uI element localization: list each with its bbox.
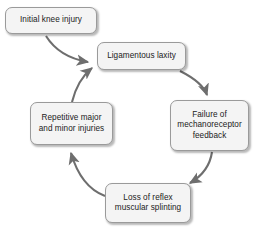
edge-failure-to-loss <box>190 152 212 183</box>
edge-initial-to-laxity <box>46 36 88 62</box>
node-initial-knee-injury[interactable]: Initial knee injury <box>5 7 97 34</box>
diagram-canvas: Initial knee injury Ligamentous laxity F… <box>0 0 258 229</box>
node-label: Ligamentous laxity <box>104 51 179 62</box>
node-ligamentous-laxity[interactable]: Ligamentous laxity <box>97 42 186 70</box>
node-failure-of-mechanoreceptor-feedback[interactable]: Failure of mechanoreceptor feedback <box>170 100 249 151</box>
edge-loss-to-repetitive <box>71 153 105 196</box>
node-label: Failure of mechanoreceptor feedback <box>174 110 244 142</box>
node-loss-of-reflex-muscular-splinting[interactable]: Loss of reflex muscular splinting <box>105 183 191 223</box>
node-label: Loss of reflex muscular splinting <box>112 193 184 214</box>
edge-laxity-to-failure <box>180 71 207 95</box>
node-label: Initial knee injury <box>17 15 85 26</box>
node-label: Repetitive major and minor injuries <box>36 113 108 134</box>
edge-repetitive-to-laxity <box>72 68 92 102</box>
node-repetitive-major-and-minor-injuries[interactable]: Repetitive major and minor injuries <box>30 102 113 145</box>
